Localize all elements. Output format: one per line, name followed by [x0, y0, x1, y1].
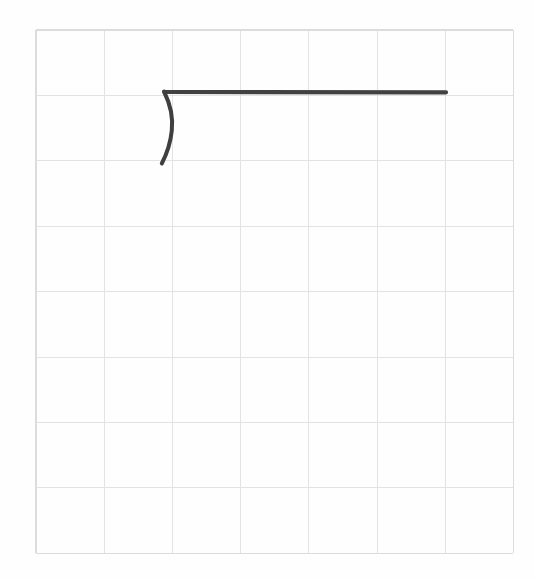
drawing-canvas[interactable]	[0, 0, 534, 579]
canvas-background	[0, 0, 534, 579]
drawing-surface-svg[interactable]	[0, 0, 534, 579]
drawing-app-root	[0, 0, 534, 579]
